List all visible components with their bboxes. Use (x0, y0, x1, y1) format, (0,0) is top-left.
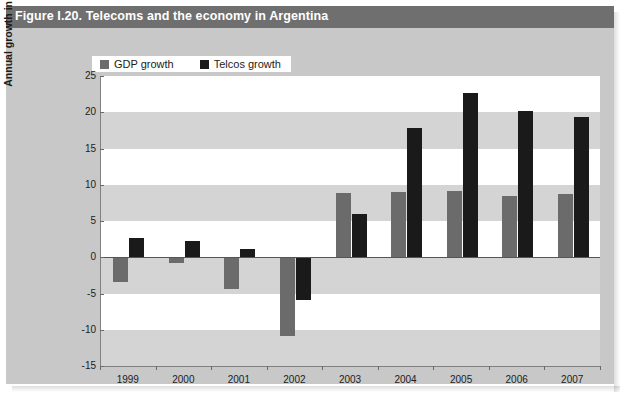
bar-telcos-growth-2004[interactable] (407, 128, 422, 257)
bar-telcos-growth-2003[interactable] (352, 214, 367, 258)
plot-area (100, 76, 600, 366)
x-tick-label-2001: 2001 (211, 374, 267, 385)
chart-legend: GDP growth Telcos growth (92, 56, 291, 72)
y-tick-mark (100, 76, 104, 77)
x-tick-mark (544, 366, 545, 370)
bar-gdp-growth-1999[interactable] (113, 257, 128, 282)
bar-gdp-growth-2003[interactable] (336, 193, 351, 257)
x-tick-label-2002: 2002 (266, 374, 322, 385)
bar-gdp-growth-2007[interactable] (558, 194, 573, 257)
figure-title-bar: Figure I.20. Telecoms and the economy in… (6, 6, 614, 28)
y-tick-mark (100, 221, 104, 222)
x-tick-label-2000: 2000 (155, 374, 211, 385)
figure-title: Figure I.20. Telecoms and the economy in… (15, 9, 328, 23)
x-tick-label-2006: 2006 (489, 374, 545, 385)
figure-card: Figure I.20. Telecoms and the economy in… (6, 6, 614, 384)
y-axis-title: Annual growth in per cent (2, 0, 14, 102)
x-tick-label-2007: 2007 (544, 374, 600, 385)
y-tick-label: 0 (70, 252, 96, 262)
legend-swatch-telcos (200, 60, 209, 69)
y-tick-mark (100, 294, 104, 295)
x-tick-mark (211, 366, 212, 370)
bar-telcos-growth-2002[interactable] (296, 257, 311, 300)
bar-telcos-growth-1999[interactable] (129, 238, 144, 258)
x-tick-mark (433, 366, 434, 370)
bar-telcos-growth-2006[interactable] (518, 111, 533, 257)
zero-line (101, 257, 600, 258)
screenshot-root: Figure I.20. Telecoms and the economy in… (0, 0, 627, 397)
y-tick-label: -10 (70, 325, 96, 335)
y-tick-mark (100, 112, 104, 113)
bar-gdp-growth-2004[interactable] (391, 192, 406, 257)
legend-item-telcos[interactable]: Telcos growth (200, 58, 281, 70)
x-axis-line (100, 366, 600, 367)
y-tick-label: 25 (70, 71, 96, 81)
x-tick-mark (267, 366, 268, 370)
x-tick-mark (600, 366, 601, 370)
y-tick-mark (100, 366, 104, 367)
x-tick-label-2003: 2003 (322, 374, 378, 385)
y-axis-tick-labels: 2520151050-5-10-15 (64, 76, 96, 366)
legend-label-gdp: GDP growth (114, 58, 174, 70)
x-tick-mark (322, 366, 323, 370)
plot-wrapper (100, 76, 600, 366)
legend-swatch-gdp (100, 60, 109, 69)
card-shadow-right (614, 12, 620, 392)
bar-telcos-growth-2000[interactable] (185, 241, 200, 257)
card-shadow-bottom (12, 386, 620, 392)
y-tick-mark (100, 149, 104, 150)
x-tick-label-2004: 2004 (378, 374, 434, 385)
legend-item-gdp[interactable]: GDP growth (100, 58, 174, 70)
x-tick-label-2005: 2005 (433, 374, 489, 385)
x-tick-mark (378, 366, 379, 370)
bars-layer (101, 76, 600, 366)
x-tick-mark (156, 366, 157, 370)
bar-telcos-growth-2001[interactable] (240, 249, 255, 257)
bar-telcos-growth-2005[interactable] (463, 93, 478, 257)
y-tick-label: 5 (70, 216, 96, 226)
y-tick-label: 15 (70, 144, 96, 154)
y-tick-mark (100, 257, 104, 258)
y-tick-label: 20 (70, 107, 96, 117)
bar-gdp-growth-2002[interactable] (280, 257, 295, 336)
bar-gdp-growth-2001[interactable] (224, 257, 239, 289)
bar-gdp-growth-2006[interactable] (502, 196, 517, 258)
bar-telcos-growth-2007[interactable] (574, 117, 589, 257)
legend-label-telcos: Telcos growth (214, 58, 281, 70)
y-tick-label: 10 (70, 180, 96, 190)
y-tick-mark (100, 185, 104, 186)
x-tick-mark (489, 366, 490, 370)
y-tick-mark (100, 330, 104, 331)
bar-gdp-growth-2005[interactable] (447, 191, 462, 258)
y-tick-label: -5 (70, 289, 96, 299)
y-tick-label: -15 (70, 361, 96, 371)
x-tick-label-1999: 1999 (100, 374, 156, 385)
